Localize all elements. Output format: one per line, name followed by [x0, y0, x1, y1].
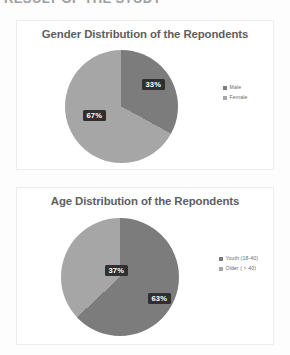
chart-title-gender: Gender Distribution of the Repondents — [17, 28, 273, 40]
chart-card-age: Age Distribution of the Repondents 37% 6… — [16, 187, 274, 345]
legend-label-male: Male — [230, 85, 242, 90]
pie-chart-gender — [65, 50, 178, 163]
legend-swatch-youth-icon — [219, 257, 223, 261]
pie-chart-age — [61, 218, 179, 336]
legend-item-older[interactable]: Older ( > 40) — [219, 266, 258, 271]
page-header-text: RESULT OF THE STUDY — [4, 0, 162, 6]
legend-item-youth[interactable]: Youth (18-40) — [219, 256, 258, 261]
legend-item-female[interactable]: Female — [223, 95, 247, 100]
legend-swatch-female-icon — [223, 96, 227, 100]
chart-card-gender: Gender Distribution of the Repondents 33… — [16, 20, 274, 170]
pie-slice-label-female: 67% — [83, 110, 106, 121]
legend-swatch-older-icon — [219, 267, 223, 271]
pie-slice-label-youth: 63% — [148, 293, 171, 304]
page-header-sliver: RESULT OF THE STUDY — [0, 0, 290, 11]
legend-age: Youth (18-40) Older ( > 40) — [219, 256, 258, 271]
legend-label-older: Older ( > 40) — [226, 266, 257, 271]
pie-slice-label-male: 33% — [142, 79, 165, 90]
legend-item-male[interactable]: Male — [223, 85, 247, 90]
legend-swatch-male-icon — [223, 86, 227, 90]
chart-title-age: Age Distribution of the Repondents — [17, 195, 273, 207]
legend-label-female: Female — [230, 95, 248, 100]
legend-label-youth: Youth (18-40) — [226, 256, 259, 261]
pie-slice-label-older: 37% — [105, 265, 128, 276]
legend-gender: Male Female — [223, 85, 247, 100]
